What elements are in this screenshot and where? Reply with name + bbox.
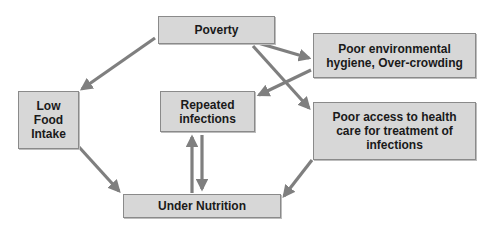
arrow-poverty-to-hygiene: [258, 43, 309, 58]
node-poor-environmental-hygiene: Poor environmental hygiene, Over-crowdin…: [313, 33, 476, 78]
node-label: Poor environmental hygiene, Over-crowdin…: [325, 42, 465, 70]
node-poor-access-health-care: Poor access to health care for treatment…: [313, 102, 476, 160]
arrow-low-food-to-under-nutrition: [79, 147, 119, 191]
arrow-health-care-to-under-nutrition: [284, 160, 312, 196]
node-label: Low Food Intake: [27, 99, 71, 141]
node-label: Poor access to health care for treatment…: [331, 110, 459, 152]
node-label: Repeated infections: [168, 98, 248, 126]
node-under-nutrition: Under Nutrition: [123, 194, 281, 218]
node-label: Poverty: [194, 23, 238, 37]
node-poverty: Poverty: [158, 16, 275, 44]
arrow-hygiene-to-repeated: [259, 70, 311, 95]
node-low-food-intake: Low Food Intake: [18, 91, 79, 149]
node-label: Under Nutrition: [158, 199, 246, 213]
arrow-poverty-to-low-food: [82, 38, 155, 89]
node-repeated-infections: Repeated infections: [160, 91, 255, 132]
